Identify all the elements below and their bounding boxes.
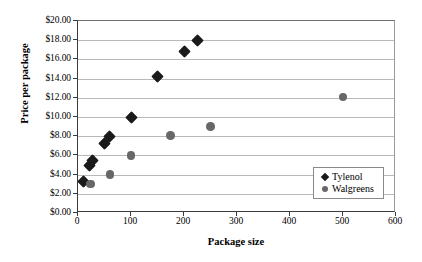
data-point-tylenol xyxy=(191,34,204,47)
gridline xyxy=(78,155,394,156)
x-tick-mark xyxy=(236,212,237,216)
data-point-walgreens xyxy=(166,131,175,140)
gridline xyxy=(78,136,394,137)
y-tick-label: $16.00 xyxy=(0,53,71,63)
x-tick-label: 200 xyxy=(163,216,203,227)
y-tick-label: $6.00 xyxy=(0,149,71,159)
gridline xyxy=(78,21,394,22)
chart-legend: TylenolWalgreens xyxy=(313,167,384,199)
x-tick-mark xyxy=(289,212,290,216)
data-point-tylenol xyxy=(178,45,191,58)
data-point-walgreens xyxy=(206,122,215,131)
legend-item-walgreens[interactable]: Walgreens xyxy=(319,183,379,195)
y-tick-label: $14.00 xyxy=(0,73,71,83)
x-tick-label: 0 xyxy=(57,216,97,227)
y-tick-label: $2.00 xyxy=(0,188,71,198)
diamond-marker-icon xyxy=(319,172,330,183)
data-point-walgreens xyxy=(127,151,136,160)
data-point-walgreens xyxy=(106,170,115,179)
legend-label: Tylenol xyxy=(330,171,362,183)
x-tick-label: 600 xyxy=(375,216,415,227)
gridline xyxy=(78,79,394,80)
x-tick-mark xyxy=(77,212,78,216)
x-tick-mark xyxy=(183,212,184,216)
x-tick-mark xyxy=(395,212,396,216)
x-tick-mark xyxy=(342,212,343,216)
gridline xyxy=(78,40,394,41)
y-tick-label: $20.00 xyxy=(0,15,71,25)
y-tick-label: $10.00 xyxy=(0,111,71,121)
circle-marker-icon xyxy=(319,184,330,195)
y-tick-label: $8.00 xyxy=(0,130,71,140)
x-tick-label: 300 xyxy=(216,216,256,227)
x-tick-label: 500 xyxy=(322,216,362,227)
gridline xyxy=(78,59,394,60)
data-point-walgreens xyxy=(339,93,348,102)
y-tick-label: $18.00 xyxy=(0,34,71,44)
data-point-tylenol xyxy=(151,70,164,83)
y-tick-label: $4.00 xyxy=(0,169,71,179)
legend-label: Walgreens xyxy=(330,183,374,195)
data-point-tylenol xyxy=(125,111,138,124)
y-tick-label: $12.00 xyxy=(0,92,71,102)
x-axis-title: Package size xyxy=(77,236,395,247)
data-point-walgreens xyxy=(86,180,95,189)
x-tick-label: 400 xyxy=(269,216,309,227)
scatter-chart: Price per package $0.00$2.00$4.00$6.00$8… xyxy=(0,0,422,262)
x-tick-label: 100 xyxy=(110,216,150,227)
x-tick-mark xyxy=(130,212,131,216)
legend-item-tylenol[interactable]: Tylenol xyxy=(319,171,379,183)
